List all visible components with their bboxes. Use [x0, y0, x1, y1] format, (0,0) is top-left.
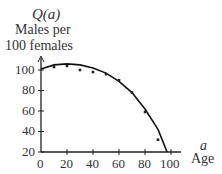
data-point	[157, 138, 160, 141]
data-point	[118, 79, 121, 82]
data-point	[53, 66, 56, 69]
data-point	[105, 73, 108, 76]
plot-area	[0, 0, 222, 174]
axes	[41, 58, 181, 152]
fitted-curve	[41, 64, 167, 152]
data-point	[144, 111, 147, 114]
data-point	[92, 71, 95, 74]
data-point	[66, 65, 69, 68]
ticks	[38, 70, 171, 155]
data-points	[53, 65, 160, 141]
data-point	[131, 91, 134, 94]
data-point	[79, 69, 82, 72]
